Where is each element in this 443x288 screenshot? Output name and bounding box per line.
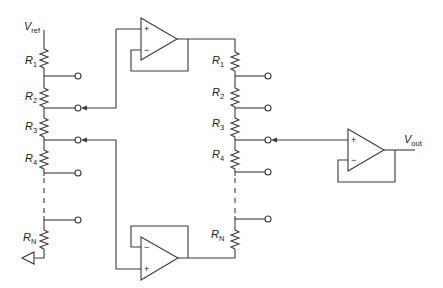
svg-text:−: − xyxy=(351,155,356,165)
left-tap-3-terminal xyxy=(75,137,81,143)
arrow-icon xyxy=(81,138,87,143)
right-r1-label: R1 xyxy=(212,54,224,69)
arrow-icon xyxy=(271,138,277,143)
vout-label: Vout xyxy=(404,133,423,148)
left-r1-label: R1 xyxy=(25,54,37,69)
left-r4-label: R4 xyxy=(25,152,37,167)
right-r2-label: R2 xyxy=(212,86,224,101)
left-tap-4-terminal xyxy=(75,170,81,176)
right-tap-1-terminal xyxy=(265,73,271,79)
svg-text:+: + xyxy=(144,264,149,274)
left-rn-label: RN xyxy=(23,231,36,246)
left-r2-resistor xyxy=(40,88,48,107)
svg-text:−: − xyxy=(144,242,149,252)
left-ladder: Vref R1 R2 R3 R4 RN xyxy=(22,20,81,264)
right-rn-label: RN xyxy=(211,228,224,243)
right-ladder: R1 R2 R3 R4 RN xyxy=(211,52,271,249)
left-r3-label: R3 xyxy=(25,120,37,135)
svg-text:+: + xyxy=(144,24,149,34)
left-rn-resistor xyxy=(40,230,48,249)
svg-text:−: − xyxy=(144,45,149,55)
right-tap-4-terminal xyxy=(265,169,271,175)
vref-label: Vref xyxy=(24,20,41,35)
right-r3-label: R3 xyxy=(212,117,224,132)
switch-wiring xyxy=(81,29,141,269)
left-r2-label: R2 xyxy=(25,90,37,105)
arrow-icon xyxy=(81,106,87,111)
svg-text:+: + xyxy=(351,135,356,145)
left-tap-2-terminal xyxy=(75,105,81,111)
left-r4-resistor xyxy=(40,150,48,169)
right-r3-resistor xyxy=(231,118,239,137)
ground-icon xyxy=(22,252,34,264)
right-r4-resistor xyxy=(231,150,239,169)
right-tap-3-terminal xyxy=(265,137,271,143)
right-r4-label: R4 xyxy=(212,148,224,163)
circuit-diagram: Vref R1 R2 R3 R4 RN xyxy=(0,0,443,288)
left-tap-n-terminal xyxy=(75,217,81,223)
right-r2-resistor xyxy=(231,88,239,107)
left-tap-1-terminal xyxy=(75,73,81,79)
right-rn-resistor xyxy=(231,230,239,249)
left-r1-resistor xyxy=(40,49,48,68)
output-opamp: + − Vout xyxy=(271,129,423,182)
right-r1-resistor xyxy=(231,52,239,71)
left-r3-resistor xyxy=(40,118,48,137)
right-tap-2-terminal xyxy=(265,105,271,111)
right-tap-n-terminal xyxy=(265,216,271,222)
